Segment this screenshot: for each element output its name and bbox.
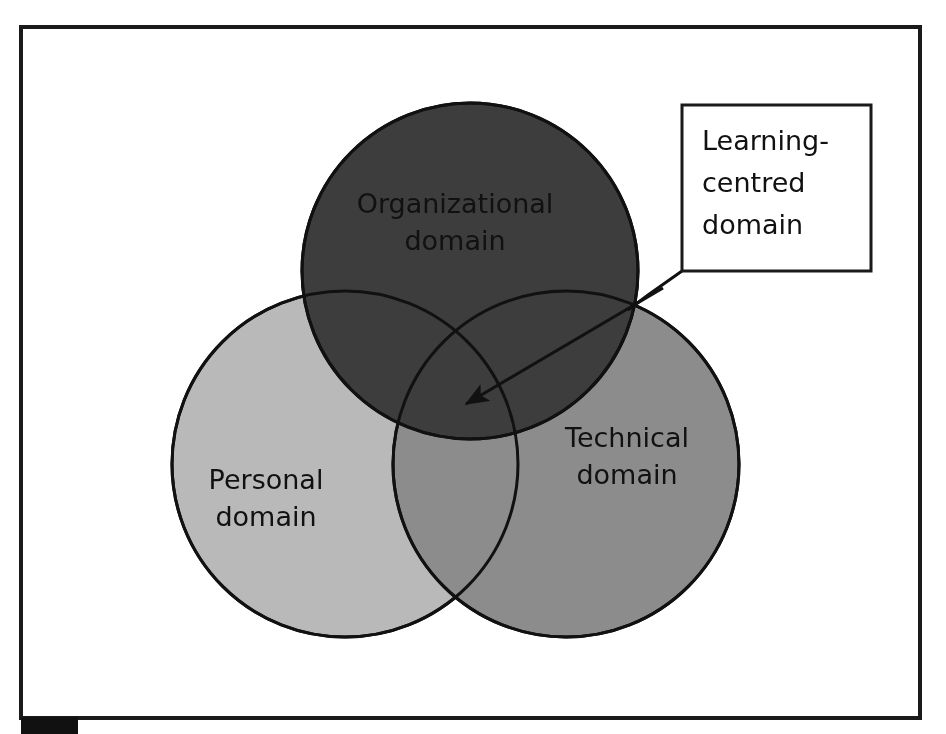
venn-diagram-figure: Organizational domain Personal domain Te…	[0, 0, 946, 734]
callout-text-line3: domain	[702, 209, 803, 240]
page-corner-block	[21, 717, 78, 734]
label-technical-domain-line2: domain	[576, 459, 677, 490]
callout-text-line2: centred	[702, 167, 805, 198]
circle-organizational-domain[interactable]	[302, 103, 638, 439]
label-organizational-domain-line1: Organizational	[357, 188, 554, 219]
label-personal-domain-line1: Personal	[209, 464, 324, 495]
label-technical-domain-line1: Technical	[564, 422, 689, 453]
label-personal-domain-line2: domain	[215, 501, 316, 532]
label-organizational-domain-line2: domain	[404, 225, 505, 256]
callout-text-line1: Learning-	[702, 125, 829, 156]
diagram-canvas: Organizational domain Personal domain Te…	[0, 0, 946, 734]
